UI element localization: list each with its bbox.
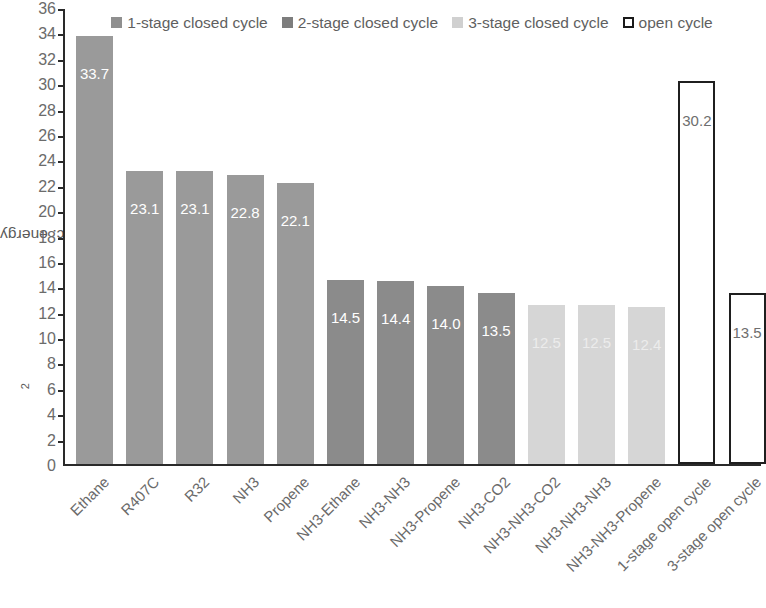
y-axis-tick-label: 2: [47, 433, 56, 449]
y-axis-tick-label: 14: [38, 280, 56, 296]
legend-swatch-icon: [282, 17, 293, 28]
y-axis-tick-mark: [58, 187, 65, 189]
y-axis-tick-mark: [58, 9, 65, 11]
y-axis-tick-label: 12: [38, 306, 56, 322]
y-axis-tick-label: 24: [38, 153, 56, 169]
bar[interactable]: 13.5: [478, 293, 515, 464]
y-axis-tick-mark: [58, 238, 65, 240]
bar-value-label: 30.2: [680, 113, 713, 128]
x-axis-category-label: R32: [182, 474, 212, 504]
y-axis-tick-mark: [58, 212, 65, 214]
y-axis-tick-mark: [58, 111, 65, 113]
bar[interactable]: 23.1: [126, 171, 163, 464]
bar[interactable]: 13.5: [729, 293, 766, 464]
bar-value-label: 23.1: [176, 201, 213, 216]
bar[interactable]: 30.2: [678, 81, 715, 464]
legend-label: 2-stage closed cycle: [298, 15, 438, 31]
x-axis-category-label: 1-stage open cycle: [614, 474, 714, 574]
bar-value-label: 23.1: [126, 201, 163, 216]
y-axis-tick-label: 4: [47, 407, 56, 423]
y-axis-tick-label: 36: [38, 1, 56, 17]
y-axis-tick-mark: [58, 441, 65, 443]
y-axis-title: Minimum spec. energy demand in kWh/t CO2: [0, 0, 26, 470]
y-axis-tick-mark: [58, 364, 65, 366]
y-axis-tick-labels: 363432302826242220181614121086420: [26, 0, 60, 475]
legend-entry[interactable]: open cycle: [623, 15, 713, 31]
legend-entry[interactable]: 3-stage closed cycle: [452, 15, 608, 31]
y-axis-tick-label: 16: [38, 255, 56, 271]
x-axis-category-label: NH3-NH3-Propene: [563, 474, 663, 574]
y-axis-tick-label: 28: [38, 103, 56, 119]
y-axis-tick-mark: [58, 136, 65, 138]
bar-value-label: 22.8: [227, 205, 264, 220]
legend-label: 1-stage closed cycle: [127, 15, 267, 31]
bar-value-label: 14.0: [427, 316, 464, 331]
bar-value-label: 13.5: [731, 325, 764, 340]
bar[interactable]: 22.1: [277, 183, 314, 464]
bar-value-label: 14.4: [377, 311, 414, 326]
bar-value-label: 12.5: [528, 335, 565, 350]
y-axis-tick-label: 6: [47, 382, 56, 398]
y-axis-tick-label: 0: [47, 458, 56, 474]
bar-value-label: 14.5: [327, 310, 364, 325]
y-axis-tick-mark: [58, 34, 65, 36]
legend-swatch-icon: [452, 17, 463, 28]
legend-swatch-icon: [623, 17, 634, 28]
y-axis-tick-mark: [58, 161, 65, 163]
y-axis-tick-label: 32: [38, 52, 56, 68]
bar[interactable]: 12.5: [578, 305, 615, 464]
y-axis-tick-mark: [58, 339, 65, 341]
legend-entry[interactable]: 1-stage closed cycle: [111, 15, 267, 31]
y-axis-tick-label: 34: [38, 26, 56, 42]
x-axis-category-label: NH3: [230, 474, 262, 506]
y-axis-tick-mark: [58, 314, 65, 316]
y-axis-tick-label: 30: [38, 77, 56, 93]
bar-value-label: 22.1: [277, 213, 314, 228]
bar-value-label: 33.7: [76, 66, 113, 81]
y-axis-tick-mark: [58, 390, 65, 392]
bar[interactable]: 12.4: [628, 307, 665, 464]
y-axis-tick-label: 18: [38, 230, 56, 246]
bar[interactable]: 14.0: [427, 286, 464, 464]
bar-value-label: 12.5: [578, 335, 615, 350]
bar[interactable]: 23.1: [176, 171, 213, 464]
y-axis-tick-mark: [58, 288, 65, 290]
y-axis-tick-mark: [58, 415, 65, 417]
bar[interactable]: 33.7: [76, 36, 113, 464]
y-axis-tick-label: 20: [38, 204, 56, 220]
bar-value-label: 13.5: [478, 323, 515, 338]
x-axis-category-label: Ethane: [67, 474, 111, 518]
plot-inner: 33.723.123.122.822.114.514.414.013.512.5…: [65, 9, 761, 464]
legend-swatch-icon: [111, 17, 122, 28]
y-axis-tick-mark: [58, 60, 65, 62]
plot-area: 33.723.123.122.822.114.514.414.013.512.5…: [63, 9, 761, 466]
y-axis-tick-label: 10: [38, 331, 56, 347]
bar[interactable]: 14.4: [377, 281, 414, 464]
y-axis-tick-label: 26: [38, 128, 56, 144]
y-axis-tick-mark: [58, 85, 65, 87]
x-axis-category-label: R407C: [118, 474, 162, 518]
legend-label: 3-stage closed cycle: [468, 15, 608, 31]
y-axis-tick-mark: [58, 263, 65, 265]
x-axis-category-labels: EthaneR407CR32NH3PropeneNH3-EthaneNH3-NH…: [63, 466, 761, 608]
bar[interactable]: 12.5: [528, 305, 565, 464]
bar-value-label: 12.4: [628, 337, 665, 352]
bar[interactable]: 14.5: [327, 280, 364, 464]
y-axis-tick-label: 8: [47, 356, 56, 372]
x-axis-category-label: Propene: [261, 474, 312, 525]
legend-label: open cycle: [639, 15, 713, 31]
bar[interactable]: 22.8: [227, 175, 264, 464]
legend-entry[interactable]: 2-stage closed cycle: [282, 15, 438, 31]
x-axis-category-label: 3-stage open cycle: [664, 474, 764, 574]
y-axis-tick-label: 22: [38, 179, 56, 195]
